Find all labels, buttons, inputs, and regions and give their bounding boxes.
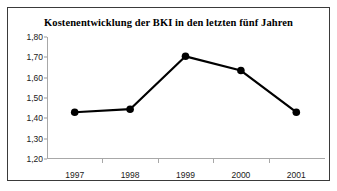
data-point-marker: 1999: 1,71	[182, 53, 190, 61]
x-tick-label: 2000	[231, 170, 250, 180]
y-tick-label: 1,50	[26, 93, 43, 103]
x-tick-mark	[213, 159, 214, 163]
x-tick-label: 1997	[65, 170, 84, 180]
y-tick-label: 1,20	[26, 154, 43, 164]
y-tick-label: 1,70	[26, 52, 43, 62]
plot-area: 1,801,701,601,501,401,301,20 19971998199…	[47, 37, 324, 159]
x-tick-label: 1998	[121, 170, 140, 180]
y-tick-label: 1,30	[26, 134, 43, 144]
x-tick-mark	[102, 159, 103, 163]
data-point-marker: 1998: 1,45	[126, 105, 134, 113]
x-tick-mark	[158, 159, 159, 163]
chart-title: Kostenentwicklung der BKI in den letzten…	[8, 17, 329, 28]
data-point-marker: 2000: 1,64	[237, 67, 245, 75]
series-line	[75, 56, 297, 112]
line-series: 1997: 1,431998: 1,451999: 1,712000: 1,64…	[47, 37, 324, 159]
data-point-marker: 2001: 1,43	[293, 108, 301, 116]
x-tick-label: 1999	[176, 170, 195, 180]
data-point-marker: 1997: 1,43	[71, 108, 79, 116]
chart-frame: Kostenentwicklung der BKI in den letzten…	[7, 7, 330, 181]
y-tick-label: 1,80	[26, 32, 43, 42]
x-tick-mark	[269, 159, 270, 163]
y-tick-label: 1,40	[26, 113, 43, 123]
y-tick-label: 1,60	[26, 73, 43, 83]
x-tick-label: 2001	[287, 170, 306, 180]
